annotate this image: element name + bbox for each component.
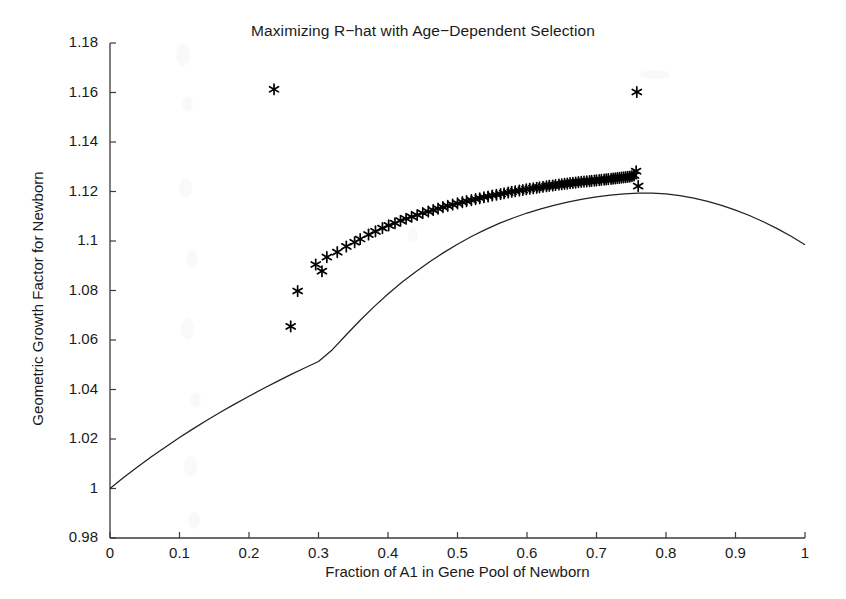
asterisk-marker xyxy=(286,321,295,331)
y-tick-label: 0.98 xyxy=(0,528,98,545)
x-tick-label: 0.1 xyxy=(150,544,210,561)
x-tick-label: 0.5 xyxy=(428,544,488,561)
y-tick-label: 1.18 xyxy=(0,33,98,50)
x-tick-label: 0.4 xyxy=(358,544,418,561)
y-tick-label: 1.06 xyxy=(0,330,98,347)
x-tick-label: 0.9 xyxy=(706,544,766,561)
y-tick-label: 1.04 xyxy=(0,380,98,397)
x-tick-label: 0.8 xyxy=(636,544,696,561)
x-tick-label: 0.2 xyxy=(219,544,279,561)
x-tick-label: 0.3 xyxy=(289,544,349,561)
asterisk-marker xyxy=(333,247,342,257)
y-tick-label: 1.1 xyxy=(0,231,98,248)
asterisk-marker xyxy=(293,286,302,296)
asterisk-marker xyxy=(634,181,643,191)
growth-factor-curve xyxy=(110,193,805,488)
asterisk-marker xyxy=(364,229,373,239)
asterisk-marker xyxy=(311,259,320,269)
curve-path xyxy=(110,193,805,488)
y-tick-label: 1.12 xyxy=(0,182,98,199)
tick-marks xyxy=(110,43,805,538)
y-tick-label: 1.08 xyxy=(0,281,98,298)
figure-plot-area: Maximizing R−hat with Age−Dependent Sele… xyxy=(0,0,846,599)
asterisk-marker xyxy=(342,241,351,251)
y-tick-label: 1.16 xyxy=(0,83,98,100)
asterisk-marker xyxy=(322,252,331,262)
y-tick-label: 1 xyxy=(0,479,98,496)
asterisk-marker xyxy=(371,226,380,236)
x-tick-label: 0 xyxy=(80,544,140,561)
x-tick-label: 1 xyxy=(775,544,835,561)
asterisk-marker xyxy=(317,266,326,276)
sample-markers xyxy=(270,84,643,332)
axes-frame xyxy=(110,43,805,538)
plot-canvas xyxy=(0,0,846,599)
asterisk-marker xyxy=(270,84,279,94)
y-tick-label: 1.02 xyxy=(0,429,98,446)
y-tick-label: 1.14 xyxy=(0,132,98,149)
x-tick-label: 0.7 xyxy=(567,544,627,561)
x-tick-label: 0.6 xyxy=(497,544,557,561)
asterisk-marker xyxy=(632,87,641,97)
